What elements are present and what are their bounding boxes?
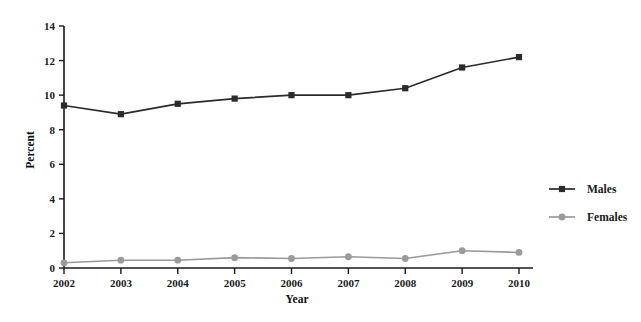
y-tick-label: 6 (50, 158, 56, 170)
y-tick-label: 12 (44, 55, 56, 67)
legend-marker (559, 186, 565, 192)
data-point-marker (402, 85, 408, 91)
data-point-marker (117, 257, 124, 264)
data-point-marker (288, 255, 295, 262)
data-point-marker (459, 247, 466, 254)
x-tick-label: 2004 (167, 277, 190, 289)
data-point-marker (288, 92, 294, 98)
data-point-marker (345, 92, 351, 98)
data-point-marker (459, 64, 465, 70)
x-tick-label: 2008 (394, 277, 417, 289)
x-tick-label: 2005 (224, 277, 247, 289)
y-tick-label: 0 (50, 262, 56, 274)
legend-label-females: Females (587, 211, 628, 223)
data-point-marker (61, 102, 67, 108)
y-axis-title: Percent (24, 131, 36, 169)
x-tick-label: 2009 (451, 277, 474, 289)
line-chart: 02468101214 2002200320042005200620072008… (0, 0, 641, 322)
data-point-marker (345, 253, 352, 260)
data-point-marker (232, 96, 238, 102)
x-tick-label: 2003 (110, 277, 133, 289)
y-tick-label: 10 (44, 89, 56, 101)
data-point-marker (118, 111, 124, 117)
legend-label-males: Males (587, 183, 617, 195)
chart-background (0, 0, 641, 322)
data-point-marker (61, 259, 68, 266)
x-tick-label: 2006 (281, 277, 304, 289)
legend-marker (559, 214, 566, 221)
x-axis-title: Year (286, 293, 309, 305)
x-tick-label: 2002 (53, 277, 76, 289)
chart-canvas: 02468101214 2002200320042005200620072008… (0, 0, 641, 322)
data-point-marker (516, 54, 522, 60)
x-tick-label: 2007 (337, 277, 360, 289)
data-point-marker (402, 255, 409, 262)
x-tick-label: 2010 (508, 277, 531, 289)
data-point-marker (516, 249, 523, 256)
y-tick-label: 8 (50, 124, 56, 136)
data-point-marker (231, 254, 238, 261)
data-point-marker (175, 101, 181, 107)
data-point-marker (174, 257, 181, 264)
y-tick-label: 4 (50, 193, 56, 205)
y-tick-label: 2 (50, 227, 56, 239)
y-tick-label: 14 (44, 20, 56, 32)
